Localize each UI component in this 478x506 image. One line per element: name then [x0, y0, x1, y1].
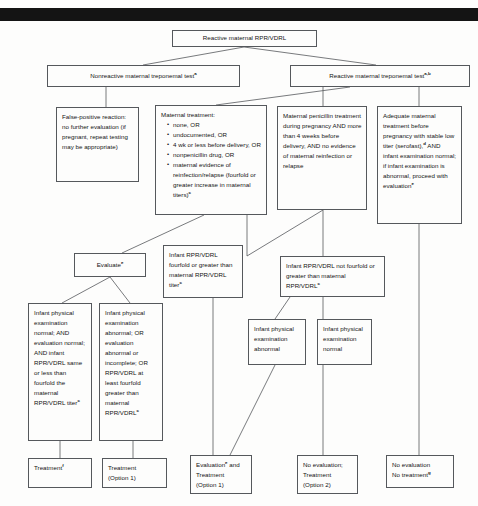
footnote-marker: c — [77, 398, 79, 403]
node-treatment-option-1-line2: (Option 1) — [108, 474, 136, 481]
node-maternal-treatment-list: none, OR undocumented, OR 4 wk or less b… — [161, 120, 262, 200]
node-treatment-option-1: Treatment (Option 1) — [102, 458, 167, 488]
node-infant-physical-exam-abnormal-label: Infant physical examination abnormal — [254, 325, 294, 352]
list-item: nonpenicillin drug, OR — [168, 150, 262, 160]
footnote-marker: e — [411, 181, 413, 186]
node-evaluation-and-treatment-line3: (Option 1) — [196, 481, 224, 488]
list-item: 4 wk or less before delivery, OR — [168, 140, 262, 150]
node-no-eval-no-treatment-line1: No evaluation — [392, 461, 430, 468]
footnote-marker: a,b — [424, 71, 430, 76]
node-root: Reactive maternal RPR/VDRL — [172, 30, 317, 47]
footnote-marker: f — [62, 463, 63, 468]
node-reactive-treponemal-test: Reactive maternal treponemal testa,b — [290, 65, 470, 87]
node-maternal-penicillin-treatment: Maternal penicillin treatment during pre… — [277, 106, 367, 210]
node-treatment-option-1-line1: Treatment — [108, 464, 136, 471]
node-nonreactive-treponemal-test-label: Nonreactive maternal treponemal testa — [90, 71, 196, 81]
node-maternal-treatment-lead: Maternal treatment: — [161, 110, 262, 120]
node-infant-exam-abnormal-evaluation-abnormal: Infant physical examination abnormal; OR… — [99, 303, 163, 441]
node-adequate-maternal-treatment-label: Adequate maternal treatment before pregn… — [383, 112, 456, 189]
node-no-eval-treatment-line3: (Option 2) — [303, 481, 331, 488]
node-infant-exam-abnormal-label: Infant physical examination abnormal; OR… — [105, 309, 148, 416]
node-no-eval-treatment-line2: Treatment — [303, 471, 331, 478]
node-false-positive-reaction: False-positive reaction: no further eval… — [56, 107, 139, 182]
footnote-marker: c — [317, 281, 319, 286]
node-treatment-f: Treatmentf — [28, 458, 92, 488]
node-infant-physical-exam-normal: Infant physical examination normal — [317, 319, 372, 365]
node-reactive-treponemal-test-label: Reactive maternal treponemal testa,b — [329, 71, 430, 81]
node-infant-exam-normal-evaluation-normal: Infant physical examination normal; AND … — [28, 303, 92, 441]
list-item: undocumented, OR — [168, 130, 262, 140]
node-maternal-penicillin-treatment-label: Maternal penicillin treatment during pre… — [283, 112, 362, 169]
node-evaluation-and-treatment-line1: Evaluatione and — [196, 461, 240, 468]
node-adequate-maternal-treatment: Adequate maternal treatment before pregn… — [377, 106, 462, 224]
node-root-label: Reactive maternal RPR/VDRL — [203, 33, 286, 43]
footnote-marker: a — [194, 71, 196, 76]
node-no-eval-treatment-line1: No evaluation; — [303, 461, 343, 468]
node-maternal-treatment-inadequate: Maternal treatment: none, OR undocumente… — [155, 105, 267, 215]
node-infant-physical-exam-abnormal: Infant physical examination abnormal — [248, 319, 306, 365]
node-no-evaluation-no-treatment: No evaluation No treatmentg — [386, 455, 454, 488]
node-evaluate-label: Evaluatee — [97, 260, 124, 270]
node-evaluation-and-treatment-option-1: Evaluatione and Treatment (Option 1) — [190, 455, 252, 494]
node-infant-exam-normal-label: Infant physical examination normal; AND … — [34, 309, 85, 406]
node-no-evaluation-treatment-option-2: No evaluation; Treatment (Option 2) — [297, 455, 358, 494]
node-evaluate: Evaluatee — [74, 253, 146, 277]
footnote-marker: c — [179, 280, 181, 285]
node-no-eval-no-treatment-line2: No treatmentg — [392, 471, 431, 478]
list-item: none, OR — [168, 120, 262, 130]
node-false-positive-reaction-label: False-positive reaction: no further eval… — [62, 113, 128, 150]
footnote-marker: e — [121, 260, 123, 265]
node-infant-rpr-not-fourfold-label: Infant RPR/VDRL not fourfold or greater … — [286, 262, 375, 289]
footnote-marker: g — [428, 470, 431, 475]
node-treatment-f-label: Treatmentf — [34, 464, 64, 471]
node-evaluation-and-treatment-line2: Treatment — [196, 471, 224, 478]
node-infant-rpr-not-fourfold: Infant RPR/VDRL not fourfold or greater … — [280, 256, 385, 297]
node-nonreactive-treponemal-test: Nonreactive maternal treponemal testa — [47, 65, 240, 87]
flowchart-page: Reactive maternal RPR/VDRL Nonreactive m… — [0, 0, 478, 506]
node-infant-rpr-fourfold-label: Infant RPR/VDRL fourfold or greater than… — [169, 251, 232, 288]
list-item: maternal evidence of reinfection/relapse… — [168, 160, 262, 200]
node-infant-rpr-fourfold-or-greater: Infant RPR/VDRL fourfold or greater than… — [163, 245, 243, 298]
footnote-marker: c — [136, 408, 138, 413]
footnote-marker: c — [189, 190, 191, 195]
node-infant-physical-exam-normal-label: Infant physical examination normal — [323, 325, 363, 352]
